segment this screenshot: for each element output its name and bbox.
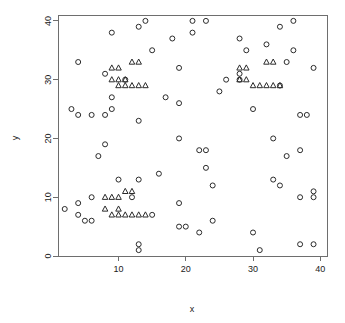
point-circle	[210, 218, 215, 223]
point-triangle	[109, 212, 115, 217]
point-circle	[177, 224, 182, 229]
point-triangle	[116, 65, 122, 70]
point-circle	[76, 60, 81, 65]
point-circle	[177, 136, 182, 141]
point-circle	[190, 30, 195, 35]
point-circle	[197, 148, 202, 153]
point-circle	[163, 95, 168, 100]
point-circle	[203, 18, 208, 23]
point-triangle	[270, 59, 276, 64]
point-circle	[311, 189, 316, 194]
point-circle	[298, 112, 303, 117]
point-triangle	[129, 188, 135, 193]
point-triangle	[116, 206, 122, 211]
point-circle	[284, 60, 289, 65]
point-circle	[89, 195, 94, 200]
y-tick-label-10: 10	[43, 192, 53, 202]
point-circle	[76, 112, 81, 117]
point-triangle	[122, 188, 128, 193]
point-triangle	[129, 212, 135, 217]
point-circle	[210, 183, 215, 188]
point-triangle	[237, 65, 243, 70]
y-axis-title: y	[10, 135, 20, 140]
point-circle	[237, 71, 242, 76]
x-axis-title: x	[190, 304, 195, 314]
axes-group	[58, 15, 327, 256]
y-tick-label-20: 20	[43, 133, 53, 143]
ticks-group	[53, 21, 320, 261]
point-circle	[109, 107, 114, 112]
point-circle	[237, 36, 242, 41]
point-circle	[76, 212, 81, 217]
point-circle	[203, 165, 208, 170]
point-triangle	[122, 83, 128, 88]
point-circle	[217, 89, 222, 94]
point-circle	[156, 171, 161, 176]
point-circle	[96, 154, 101, 159]
point-triangle	[129, 83, 135, 88]
point-circle	[251, 230, 256, 235]
point-circle	[311, 195, 316, 200]
point-circle	[170, 36, 175, 41]
point-circle	[116, 177, 121, 182]
point-circle	[251, 107, 256, 112]
point-triangle	[102, 206, 108, 211]
point-circle	[304, 112, 309, 117]
point-circle	[298, 242, 303, 247]
point-triangle	[244, 77, 250, 82]
point-circle	[62, 206, 67, 211]
point-circle	[89, 218, 94, 223]
x-tick-label-10: 10	[114, 264, 124, 274]
point-triangle	[143, 212, 149, 217]
point-triangle	[136, 59, 142, 64]
point-circle	[311, 65, 316, 70]
y-tick-label-0: 0	[43, 253, 53, 258]
point-triangle	[264, 59, 270, 64]
point-circle	[277, 24, 282, 29]
point-triangle	[116, 77, 122, 82]
point-circle	[177, 201, 182, 206]
point-circle	[197, 230, 202, 235]
point-circle	[190, 18, 195, 23]
point-circle	[264, 42, 269, 47]
point-triangle	[116, 83, 122, 88]
point-triangle	[270, 83, 276, 88]
point-circle	[136, 242, 141, 247]
point-triangle	[244, 65, 250, 70]
data-points-group	[62, 18, 316, 252]
point-circle	[103, 71, 108, 76]
x-tick-label-20: 20	[181, 264, 191, 274]
point-circle	[183, 224, 188, 229]
point-circle	[136, 177, 141, 182]
y-tick-label-30: 30	[43, 75, 53, 85]
point-circle	[150, 212, 155, 217]
point-triangle	[109, 77, 115, 82]
point-circle	[103, 142, 108, 147]
point-circle	[257, 248, 262, 253]
point-triangle	[116, 212, 122, 217]
point-circle	[103, 112, 108, 117]
plot-box	[58, 15, 327, 256]
scatter-plot-figure: 10203040010203040 x y	[0, 0, 345, 323]
series-triangles	[102, 59, 282, 217]
point-triangle	[136, 212, 142, 217]
point-circle	[203, 148, 208, 153]
series-circles	[62, 18, 316, 252]
x-tick-label-30: 30	[248, 264, 258, 274]
point-triangle	[257, 83, 263, 88]
point-circle	[298, 148, 303, 153]
point-circle	[69, 107, 74, 112]
point-circle	[89, 112, 94, 117]
point-triangle	[264, 83, 270, 88]
point-circle	[311, 242, 316, 247]
point-circle	[150, 48, 155, 53]
point-circle	[277, 183, 282, 188]
point-circle	[109, 30, 114, 35]
point-triangle	[122, 212, 128, 217]
point-circle	[271, 177, 276, 182]
point-circle	[298, 195, 303, 200]
point-circle	[143, 18, 148, 23]
point-circle	[177, 101, 182, 106]
point-circle	[291, 48, 296, 53]
point-triangle	[109, 65, 115, 70]
